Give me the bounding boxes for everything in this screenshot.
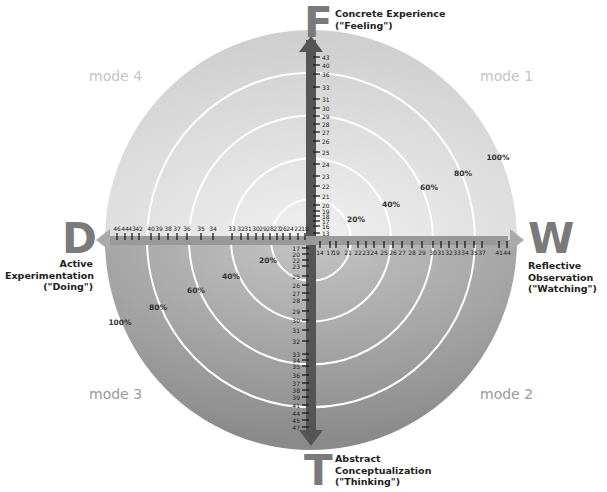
- tick-label-right: 26: [389, 249, 397, 256]
- tick-label-right: 28: [408, 249, 416, 256]
- tick-label-right: 21: [344, 249, 352, 256]
- tick-label-left: 38: [164, 225, 172, 232]
- tick-label-down: 47: [292, 424, 300, 431]
- concrete-experience-line2: ("Feeling"): [335, 20, 445, 32]
- tick-label-left: 18: [301, 225, 309, 232]
- tick-label-up: 33: [322, 84, 330, 91]
- tick-label-up: 28: [322, 121, 330, 128]
- tick-label-left: 35: [197, 225, 205, 232]
- tick-label-down: 44: [292, 410, 300, 417]
- ring-label-upper: 40%: [382, 200, 400, 209]
- tick-label-down: 27: [292, 290, 300, 297]
- tick-label-left: 32: [237, 225, 245, 232]
- tick-label-left: 40: [147, 225, 155, 232]
- tick-label-left: 24: [286, 225, 294, 232]
- tick-label-down: 38: [292, 387, 300, 394]
- tick-label-up: 23: [322, 173, 330, 180]
- left-arrow-icon: [96, 229, 110, 251]
- letter-t: T: [304, 450, 333, 492]
- concrete-experience-line1: Concrete Experience: [335, 8, 445, 20]
- tick-label-down: 32: [292, 338, 300, 345]
- ring-label-lower: 40%: [222, 272, 240, 281]
- tick-label-up: 20: [322, 202, 330, 209]
- mode-3-label: mode 3: [89, 386, 142, 402]
- tick-label-left: 28: [266, 225, 274, 232]
- tick-label-up: 31: [322, 96, 330, 103]
- active-line1: Active: [5, 258, 93, 270]
- tick-label-down: 26: [292, 282, 300, 289]
- tick-label-up: 40: [322, 62, 330, 69]
- tick-label-up: 27: [322, 129, 330, 136]
- ring-label-upper: 20%: [347, 215, 365, 224]
- tick-label-right: 19: [332, 249, 340, 256]
- tick-label-up: 24: [322, 161, 330, 168]
- tick-label-right: 34: [461, 249, 469, 256]
- tick-label-up: 30: [322, 105, 330, 112]
- tick-label-left: 42: [135, 225, 143, 232]
- tick-label-right: 23: [362, 249, 370, 256]
- tick-label-down: 28: [292, 297, 300, 304]
- active-line2: Experimentation: [5, 270, 93, 282]
- tick-label-left: 31: [244, 225, 252, 232]
- ring-label-lower: 100%: [108, 318, 132, 327]
- ring-label-upper: 100%: [486, 153, 510, 162]
- tick-label-right: 37: [478, 249, 486, 256]
- tick-label-down: 25: [292, 273, 300, 280]
- tick-label-up: 26: [322, 138, 330, 145]
- tick-label-up: 43: [322, 54, 330, 61]
- ring-label-upper: 80%: [454, 169, 472, 178]
- abstract-conceptualization-label: Abstract Conceptualization ("Thinking"): [335, 453, 431, 488]
- tick-label-right: 35: [470, 249, 478, 256]
- concrete-experience-label: Concrete Experience ("Feeling"): [335, 8, 445, 31]
- tick-label-left: 29: [259, 225, 267, 232]
- reflective-line3: ("Watching"): [528, 283, 597, 295]
- tick-label-left: 27: [273, 225, 281, 232]
- letter-w: W: [528, 218, 574, 260]
- tick-label-left: 36: [183, 225, 191, 232]
- tick-label-up: 29: [322, 113, 330, 120]
- tick-label-left: 33: [228, 225, 236, 232]
- tick-label-right: 41: [495, 249, 503, 256]
- tick-label-left: 30: [252, 225, 260, 232]
- tick-label-right: 29: [418, 249, 426, 256]
- tick-label-down: 29: [292, 308, 300, 315]
- tick-label-down: 45: [292, 417, 300, 424]
- tick-label-up: 13: [322, 230, 330, 237]
- tick-label-up: 22: [322, 183, 330, 190]
- reflective-observation-label: Reflective Observation ("Watching"): [528, 260, 597, 295]
- abstract-line3: ("Thinking"): [335, 476, 431, 488]
- ring-label-upper: 60%: [420, 183, 438, 192]
- letter-d: D: [62, 218, 97, 260]
- ring-label-lower: 60%: [187, 286, 205, 295]
- tick-label-down: 37: [292, 380, 300, 387]
- mode-1-label: mode 1: [480, 68, 533, 84]
- tick-label-down: 39: [292, 394, 300, 401]
- reflective-line2: Observation: [528, 272, 597, 284]
- mode-2-label: mode 2: [480, 386, 533, 402]
- abstract-line2: Conceptualization: [335, 465, 431, 477]
- tick-label-right: 24: [370, 249, 378, 256]
- tick-label-down: 31: [292, 327, 300, 334]
- tick-label-right: 44: [503, 249, 511, 256]
- tick-label-left: 46: [113, 225, 121, 232]
- tick-label-left: 43: [128, 225, 136, 232]
- tick-label-down: 23: [292, 263, 300, 270]
- tick-label-up: 25: [322, 149, 330, 156]
- mode-4-label: mode 4: [89, 68, 142, 84]
- tick-label-up: 21: [322, 193, 330, 200]
- tick-label-down: 36: [292, 372, 300, 379]
- tick-label-right: 27: [398, 249, 406, 256]
- tick-label-left: 34: [209, 225, 217, 232]
- tick-label-right: 32: [445, 249, 453, 256]
- tick-label-left: 37: [173, 225, 181, 232]
- tick-label-right: 33: [453, 249, 461, 256]
- right-arrow-icon: [510, 229, 524, 251]
- ring-label-lower: 20%: [259, 256, 277, 265]
- active-experimentation-label: Active Experimentation ("Doing"): [5, 258, 93, 293]
- tick-label-right: 22: [354, 249, 362, 256]
- tick-label-left: 22: [294, 225, 302, 232]
- tick-label-down: 41: [292, 402, 300, 409]
- tick-label-right: 31: [437, 249, 445, 256]
- tick-label-up: 19: [322, 208, 330, 215]
- reflective-line1: Reflective: [528, 260, 597, 272]
